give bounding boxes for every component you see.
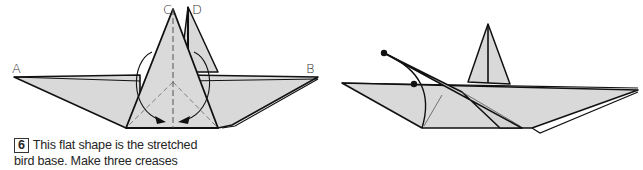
step-7-panel bbox=[322, 0, 643, 170]
step-6-panel: C D A B 6This flat shape is the stretche… bbox=[0, 0, 322, 170]
step-6-diagram: C D A B bbox=[0, 0, 322, 140]
dot-c-icon bbox=[381, 50, 387, 56]
step-number: 6 bbox=[14, 138, 29, 153]
label-a: A bbox=[12, 61, 21, 76]
step-6-caption: 6This flat shape is the stretched bird b… bbox=[14, 137, 197, 169]
label-c: C bbox=[163, 2, 172, 17]
label-b: B bbox=[306, 61, 315, 76]
dot-target-icon bbox=[411, 81, 417, 87]
label-d: D bbox=[192, 2, 202, 17]
step-7-diagram bbox=[322, 0, 643, 140]
